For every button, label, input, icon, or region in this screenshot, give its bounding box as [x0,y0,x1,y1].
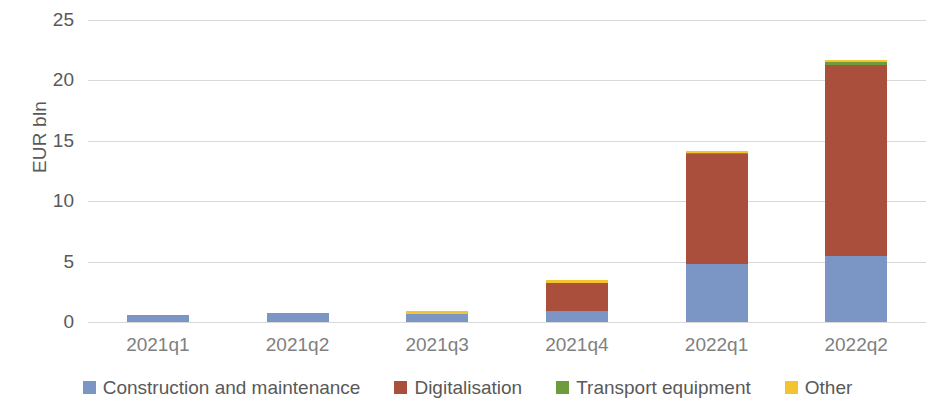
stacked-bar-chart: EUR bln 0510152025 2021q12021q22021q3202… [0,0,935,412]
bar-slot [88,20,228,322]
bar-stack[interactable] [406,311,468,322]
legend-swatch-icon [394,381,407,394]
plot-area [88,20,926,322]
bar-stack[interactable] [686,151,748,322]
legend-item[interactable]: Other [785,378,853,397]
y-axis-tick-label: 25 [20,10,74,29]
bar-segment[interactable] [546,311,608,322]
bar-segment[interactable] [406,314,468,322]
bar-segment[interactable] [825,256,887,322]
legend-item-label: Other [805,378,853,397]
bar-segment[interactable] [546,283,608,311]
y-axis-tick-label: 15 [20,131,74,150]
legend-swatch-icon [785,381,798,394]
legend-item-label: Transport equipment [576,378,751,397]
bar-segment[interactable] [127,315,189,322]
y-axis-tick-label: 10 [20,191,74,210]
bar-slot [507,20,647,322]
bar-stack[interactable] [825,60,887,322]
legend-swatch-icon [83,381,96,394]
x-axis-tick-label: 2022q2 [786,330,926,360]
gridline [88,322,926,323]
x-axis-tick-label: 2021q2 [228,330,368,360]
x-axis-tick-label: 2022q1 [647,330,787,360]
bar-segment[interactable] [825,65,887,256]
bar-stack[interactable] [127,315,189,322]
x-axis-tick-label: 2021q3 [367,330,507,360]
bar-slot [228,20,368,322]
legend-item-label: Digitalisation [414,378,522,397]
x-axis-tick-labels: 2021q12021q22021q32021q42022q12022q2 [88,330,926,360]
bar-stack[interactable] [267,313,329,322]
legend-item[interactable]: Transport equipment [556,378,751,397]
y-axis-tick-label: 0 [20,312,74,331]
bar-group [88,20,926,322]
y-axis-tick-labels: 0510152025 [12,20,74,322]
bar-segment[interactable] [267,313,329,322]
bar-segment[interactable] [686,154,748,264]
x-axis-tick-label: 2021q4 [507,330,647,360]
legend-item[interactable]: Digitalisation [394,378,522,397]
legend-item[interactable]: Construction and maintenance [83,378,361,397]
bar-slot [367,20,507,322]
bar-slot [647,20,787,322]
y-axis-tick-label: 20 [20,70,74,89]
bar-stack[interactable] [546,280,608,322]
legend-swatch-icon [556,381,569,394]
y-axis-tick-label: 5 [20,252,74,271]
bar-slot [786,20,926,322]
bar-segment[interactable] [686,264,748,322]
legend-item-label: Construction and maintenance [103,378,361,397]
chart-legend: Construction and maintenanceDigitalisati… [0,378,935,397]
x-axis-tick-label: 2021q1 [88,330,228,360]
